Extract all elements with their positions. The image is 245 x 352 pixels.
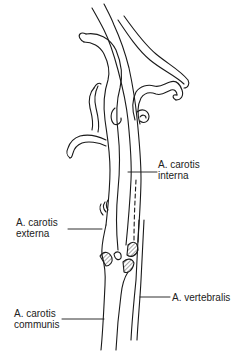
label-line: A. vertebralis bbox=[172, 292, 230, 303]
common-carotid bbox=[101, 225, 128, 350]
label-vertebralis: A. vertebralis bbox=[172, 292, 230, 303]
external-carotid bbox=[79, 33, 121, 250]
label-line: externa bbox=[16, 228, 58, 239]
vertebral-artery bbox=[131, 220, 144, 340]
label-carotis-externa: A. carotis externa bbox=[16, 217, 58, 239]
label-carotis-communis: A. carotis communis bbox=[14, 308, 60, 330]
leader-lines bbox=[62, 172, 170, 319]
bifurcation-plaques bbox=[100, 242, 138, 272]
left-branch bbox=[67, 83, 106, 158]
label-carotis-interna: A. carotis interna bbox=[158, 159, 200, 181]
label-line: A. carotis bbox=[16, 217, 58, 228]
right-upper-branch bbox=[118, 16, 189, 124]
label-line: A. carotis bbox=[158, 159, 200, 170]
label-line: A. carotis bbox=[14, 308, 60, 319]
label-line: interna bbox=[158, 170, 200, 181]
label-line: communis bbox=[14, 319, 60, 330]
